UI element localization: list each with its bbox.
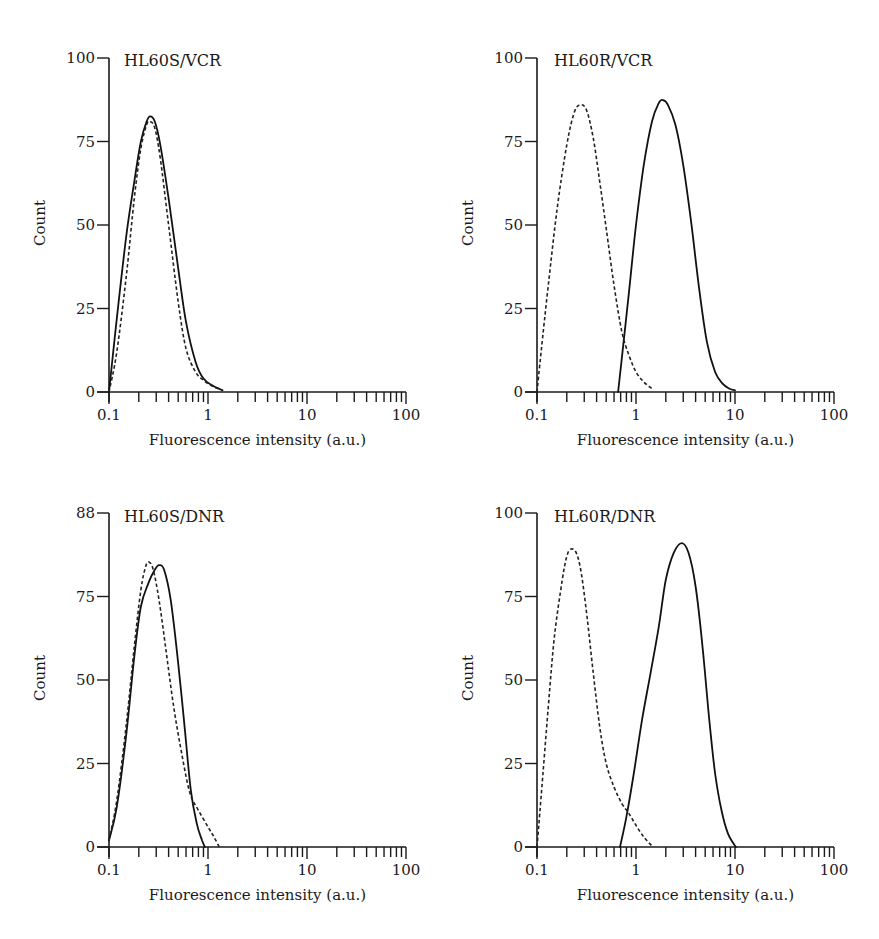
x-tick-label: 10: [297, 406, 316, 424]
x-tick-label: 10: [725, 861, 744, 879]
x-axis-label: Fluorescence intensity (a.u.): [149, 431, 366, 449]
figure: HL60S/VCR 02550751000.1110100Fluorescenc…: [0, 0, 879, 939]
panel-hl60r-dnr: HL60R/DNR 02550751000.1110100Fluorescenc…: [459, 504, 848, 904]
y-tick-label: 0: [85, 838, 95, 856]
y-tick-label: 100: [494, 49, 523, 67]
x-tick-label: 10: [297, 861, 316, 879]
y-tick-label: 75: [504, 588, 523, 606]
x-tick-label: 100: [392, 406, 421, 424]
x-axis-label: Fluorescence intensity (a.u.): [577, 431, 794, 449]
solid-curve: [109, 116, 223, 392]
panel-title: HL60S/VCR: [124, 51, 222, 70]
y-tick-label: 25: [504, 300, 523, 318]
panel-hl60s-vcr: HL60S/VCR 02550751000.1110100Fluorescenc…: [31, 49, 420, 449]
y-tick-label: 75: [76, 133, 95, 151]
y-tick-label: 25: [504, 755, 523, 773]
panel-title: HL60R/DNR: [554, 507, 656, 526]
panel-title: HL60S/DNR: [124, 507, 225, 526]
solid-curve: [109, 565, 205, 847]
y-axis-label: Count: [31, 655, 49, 701]
x-tick-label: 1: [203, 406, 213, 424]
y-tick-label: 50: [504, 216, 523, 234]
y-tick-label: 0: [513, 383, 523, 401]
x-tick-label: 1: [631, 861, 641, 879]
dashed-curve: [537, 105, 652, 392]
panel-title: HL60R/VCR: [554, 51, 653, 70]
y-tick-label: 0: [85, 383, 95, 401]
y-axis-label: Count: [459, 200, 477, 246]
panel-hl60r-vcr: HL60R/VCR 02550751000.1110100Fluorescenc…: [459, 49, 848, 449]
x-axis-label: Fluorescence intensity (a.u.): [149, 886, 366, 904]
x-tick-label: 0.1: [525, 406, 549, 424]
x-tick-label: 0.1: [97, 861, 121, 879]
y-tick-label: 50: [76, 216, 95, 234]
y-tick-label: 100: [66, 49, 95, 67]
y-tick-label: 25: [76, 755, 95, 773]
x-tick-label: 100: [820, 406, 849, 424]
y-tick-label: 75: [76, 588, 95, 606]
y-tick-label: 75: [504, 133, 523, 151]
y-axis-label: Count: [31, 200, 49, 246]
y-tick-label: 50: [504, 671, 523, 689]
x-tick-label: 0.1: [525, 861, 549, 879]
dashed-curve: [537, 549, 653, 847]
x-tick-label: 10: [725, 406, 744, 424]
y-tick-label: 0: [513, 838, 523, 856]
x-tick-label: 100: [392, 861, 421, 879]
y-axis-label: Count: [459, 655, 477, 701]
x-tick-label: 1: [631, 406, 641, 424]
dashed-curve: [109, 562, 219, 847]
x-tick-label: 100: [820, 861, 849, 879]
y-tick-label: 100: [494, 504, 523, 522]
y-tick-label: 50: [76, 671, 95, 689]
x-tick-label: 0.1: [97, 406, 121, 424]
panel-hl60s-dnr: HL60S/DNR 0255075880.1110100Fluorescence…: [31, 504, 420, 904]
solid-curve: [620, 543, 736, 847]
solid-curve: [618, 100, 735, 392]
dashed-curve: [109, 121, 223, 392]
y-tick-label: 88: [76, 504, 95, 522]
y-tick-label: 25: [76, 300, 95, 318]
x-tick-label: 1: [203, 861, 213, 879]
x-axis-label: Fluorescence intensity (a.u.): [577, 886, 794, 904]
